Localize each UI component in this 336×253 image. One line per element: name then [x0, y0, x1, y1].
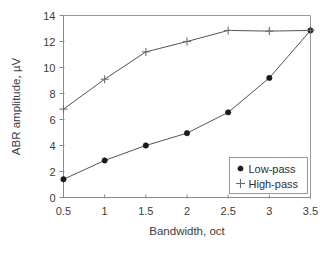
- marker-plus-1-0: [60, 105, 68, 113]
- y-tick-label-0: 0: [49, 192, 55, 204]
- axis-titles: Bandwidth, octABR amplitude, µV: [10, 57, 226, 237]
- y-tick-label-4: 4: [49, 140, 55, 152]
- legend-label-0: Low-pass: [249, 163, 297, 175]
- marker-dot-0-2: [143, 143, 148, 148]
- y-tick-label-2: 2: [49, 166, 55, 178]
- marker-plus-1-3: [183, 38, 191, 46]
- marker-plus-1-4: [224, 26, 232, 34]
- marker-plus-1-2: [142, 48, 150, 56]
- marker-dot-0-5: [267, 75, 272, 80]
- chart-legend: Low-passHigh-pass: [230, 158, 308, 194]
- marker-dot-0-3: [184, 130, 189, 135]
- series-line-0: [64, 30, 311, 179]
- x-tick-label-3.5: 3.5: [303, 205, 318, 217]
- marker-dot-0-0: [61, 177, 66, 182]
- marker-dot-0-1: [102, 158, 107, 163]
- x-axis-title: Bandwidth, oct: [149, 225, 225, 237]
- marker-plus-1-5: [265, 27, 273, 35]
- y-tick-label-12: 12: [43, 36, 55, 48]
- legend-marker-dot: [238, 166, 243, 171]
- x-tick-label-3: 3: [266, 205, 272, 217]
- y-axis-title: ABR amplitude, µV: [10, 57, 22, 155]
- y-tick-label-6: 6: [49, 114, 55, 126]
- chart-canvas: 024681012140.511.522.533.5 Bandwidth, oc…: [0, 0, 336, 253]
- marker-dot-0-4: [225, 110, 230, 115]
- y-tick-label-14: 14: [43, 10, 55, 22]
- x-tick-label-1: 1: [102, 205, 108, 217]
- x-tick-label-0.5: 0.5: [56, 205, 71, 217]
- chart-figure: 024681012140.511.522.533.5 Bandwidth, oc…: [0, 0, 336, 253]
- marker-plus-1-1: [101, 75, 109, 83]
- x-tick-label-1.5: 1.5: [138, 205, 153, 217]
- x-tick-label-2: 2: [184, 205, 190, 217]
- legend-label-1: High-pass: [249, 178, 299, 190]
- x-tick-label-2.5: 2.5: [221, 205, 236, 217]
- y-tick-label-8: 8: [49, 88, 55, 100]
- y-tick-label-10: 10: [43, 62, 55, 74]
